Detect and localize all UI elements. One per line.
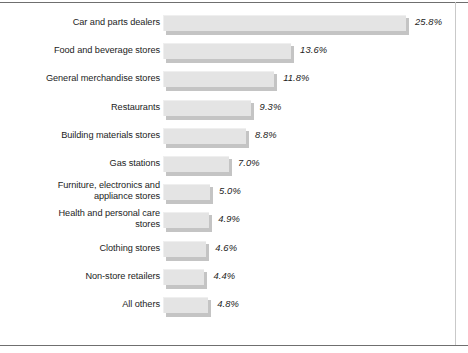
bar-shadow-bottom [166, 200, 213, 204]
category-label: Furniture, electronics and appliance sto… [10, 180, 160, 202]
bar-shadow-right [209, 215, 212, 232]
chart-row: All others4.8% [0, 294, 455, 320]
bar-fill [163, 184, 210, 200]
chart-row: Car and parts dealers25.8% [0, 12, 455, 38]
bar-value-label: 11.8% [283, 72, 309, 83]
bar-fill [163, 71, 274, 87]
bar-value-label: 13.6% [300, 44, 327, 55]
bar-shadow-bottom [166, 257, 209, 261]
bar [163, 184, 213, 205]
bar-value-label: 4.6% [215, 242, 237, 253]
bar [163, 212, 212, 233]
bar-shadow-right [291, 46, 294, 63]
plot-area: Car and parts dealers25.8%Food and bever… [0, 8, 455, 340]
frame-bottom-rule [0, 345, 468, 346]
category-label: Car and parts dealers [10, 17, 160, 28]
bar-value-label: 9.3% [260, 101, 282, 112]
bar-value-label: 4.4% [213, 270, 235, 281]
bar-shadow-right [246, 131, 249, 148]
bar-fill [163, 43, 291, 59]
bar [163, 100, 254, 121]
category-label: Non-store retailers [10, 271, 160, 282]
category-label: Health and personal care stores [10, 208, 160, 230]
bar-shadow-bottom [166, 313, 211, 317]
bar-fill [163, 128, 246, 144]
bar [163, 43, 294, 64]
frame-top-rule [0, 2, 468, 3]
bar-shadow-right [210, 187, 213, 204]
bar-shadow-bottom [166, 228, 212, 232]
bar-fill [163, 297, 208, 313]
bar-value-label: 4.8% [217, 298, 239, 309]
bar [163, 269, 207, 290]
category-label: All others [10, 299, 160, 310]
bar-value-label: 8.8% [255, 129, 277, 140]
bar-fill [163, 100, 251, 116]
bar [163, 71, 277, 92]
bar-shadow-right [251, 103, 254, 120]
bar-shadow-bottom [166, 59, 294, 63]
chart-row: Health and personal care stores4.9% [0, 209, 455, 235]
bar-fill [163, 15, 406, 31]
bar-fill [163, 212, 209, 228]
bar-shadow-bottom [166, 144, 249, 148]
category-label: Restaurants [10, 102, 160, 113]
frame-right-rule [455, 2, 456, 346]
bar-value-label: 4.9% [218, 213, 240, 224]
chart-figure: Car and parts dealers25.8%Food and bever… [0, 0, 468, 353]
bar [163, 128, 249, 149]
chart-row: Restaurants9.3% [0, 97, 455, 123]
bar [163, 156, 232, 177]
bar-shadow-right [274, 74, 277, 91]
bar-value-label: 5.0% [219, 185, 241, 196]
bar [163, 15, 409, 36]
bar-shadow-right [208, 300, 211, 317]
chart-row: Clothing stores4.6% [0, 238, 455, 264]
chart-row: Non-store retailers4.4% [0, 266, 455, 292]
bar-fill [163, 269, 204, 285]
chart-row: Building materials stores8.8% [0, 125, 455, 151]
category-label: Food and beverage stores [10, 45, 160, 56]
chart-row: Food and beverage stores13.6% [0, 40, 455, 66]
bar-shadow-right [204, 272, 207, 289]
chart-row: Furniture, electronics and appliance sto… [0, 181, 455, 207]
bar [163, 297, 211, 318]
bar-shadow-bottom [166, 87, 277, 91]
bar-shadow-bottom [166, 116, 254, 120]
chart-row: General merchandise stores11.8% [0, 68, 455, 94]
bar-fill [163, 156, 229, 172]
bar-shadow-right [406, 18, 409, 35]
category-label: General merchandise stores [10, 73, 160, 84]
bar-shadow-right [229, 159, 232, 176]
bar-fill [163, 241, 206, 257]
bar-shadow-bottom [166, 285, 207, 289]
bar-shadow-bottom [166, 172, 232, 176]
bar-value-label: 7.0% [238, 157, 260, 168]
bar-shadow-bottom [166, 31, 409, 35]
bar-value-label: 25.8% [415, 16, 442, 27]
chart-row: Gas stations7.0% [0, 153, 455, 179]
category-label: Building materials stores [10, 130, 160, 141]
category-label: Clothing stores [10, 243, 160, 254]
bar-shadow-right [206, 244, 209, 261]
category-label: Gas stations [10, 158, 160, 169]
bar [163, 241, 209, 262]
